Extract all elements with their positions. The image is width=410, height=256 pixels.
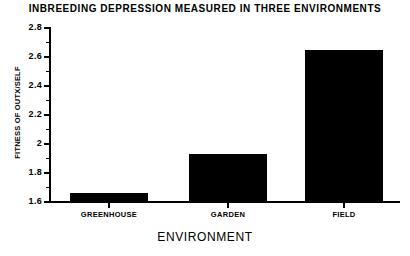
x-axis-tick (108, 203, 110, 208)
chart-title: INBREEDING DEPRESSION MEASURED IN THREE … (0, 3, 410, 14)
y-axis-tick-label: 2 (8, 139, 42, 148)
y-axis-tick-label: 2.2 (8, 110, 42, 119)
y-axis-minor-tick (46, 129, 50, 130)
x-axis-label-field: FIELD (274, 210, 410, 219)
y-axis-tick-label: 2.4 (8, 81, 42, 90)
y-axis-tick (44, 172, 50, 174)
y-axis-tick (44, 143, 50, 145)
y-axis-tick-label: 2.8 (8, 23, 42, 32)
y-axis-minor-tick (46, 42, 50, 43)
bar-garden (189, 154, 267, 202)
y-axis-minor-tick (46, 71, 50, 72)
y-axis-tick (44, 85, 50, 87)
bar-field (305, 50, 383, 202)
y-axis-tick-label: 1.6 (8, 197, 42, 206)
bar-greenhouse (70, 193, 148, 202)
y-axis-minor-tick (46, 187, 50, 188)
y-axis-tick-label: 1.8 (8, 168, 42, 177)
x-axis-tick (343, 203, 345, 208)
x-axis-tick (227, 203, 229, 208)
bar-chart-figure: INBREEDING DEPRESSION MEASURED IN THREE … (0, 0, 410, 256)
y-axis-tick (44, 114, 50, 116)
y-axis-tick (44, 56, 50, 58)
y-axis-minor-tick (46, 158, 50, 159)
y-axis-tick-label: 2.6 (8, 52, 42, 61)
y-axis-minor-tick (46, 100, 50, 101)
x-axis-title: ENVIRONMENT (0, 230, 410, 244)
y-axis-tick (44, 27, 50, 29)
y-axis-tick (44, 201, 50, 203)
